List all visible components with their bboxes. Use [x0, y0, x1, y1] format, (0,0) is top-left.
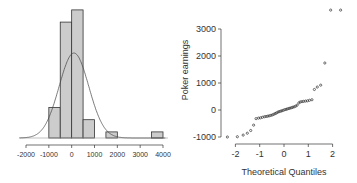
qq-point	[308, 99, 310, 101]
x-axis-label: Theoretical Quantiles	[241, 167, 327, 177]
histogram-bar	[60, 22, 71, 138]
qq-point	[316, 86, 318, 88]
x-tick-label: -2000	[17, 151, 35, 158]
histogram-panel: -2000-100001000200030004000	[17, 10, 171, 158]
qq-point	[253, 124, 255, 126]
histogram-bar	[83, 120, 94, 138]
y-tick-label: -1000	[193, 132, 216, 142]
qq-point	[226, 136, 228, 138]
x-tick-label: 1	[306, 149, 311, 159]
y-tick-label: 3000	[196, 24, 216, 34]
qq-point	[313, 88, 315, 90]
qq-point	[250, 129, 252, 131]
qq-plot-panel: -10000100020003000Poker earnings-2-1012T…	[180, 9, 342, 177]
x-tick-label: -2	[231, 149, 239, 159]
histogram-bar	[152, 132, 163, 138]
chart-canvas: -2000-100001000200030004000 -10000100020…	[0, 0, 357, 183]
qq-point	[320, 84, 322, 86]
y-tick-label: 0	[211, 105, 216, 115]
y-tick-label: 2000	[196, 51, 216, 61]
x-tick-label: 2000	[110, 151, 126, 158]
x-tick-label: 3000	[132, 151, 148, 158]
x-tick-label: 0	[70, 151, 74, 158]
qq-point	[340, 9, 342, 11]
x-tick-label: 1000	[87, 151, 103, 158]
y-tick-label: 1000	[196, 78, 216, 88]
histogram-bar	[72, 10, 83, 138]
x-tick-label: -1	[256, 149, 264, 159]
x-tick-label: 0	[281, 149, 286, 159]
qq-point	[296, 104, 298, 106]
x-tick-label: 4000	[155, 151, 171, 158]
qq-point	[311, 99, 313, 101]
x-tick-label: 2	[330, 149, 335, 159]
histogram-bar	[49, 108, 60, 139]
x-tick-label: -1000	[40, 151, 58, 158]
qq-point	[255, 118, 257, 120]
qq-point	[324, 62, 326, 64]
qq-point	[242, 134, 244, 136]
qq-point	[236, 136, 238, 138]
y-axis-label: Poker earnings	[180, 39, 190, 100]
qq-point	[330, 9, 332, 11]
qq-point	[246, 132, 248, 134]
